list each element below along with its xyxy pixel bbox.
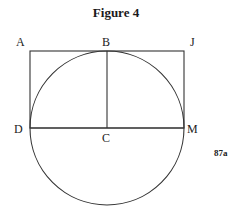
geometry-diagram: A B J D C M 87a bbox=[0, 0, 232, 219]
label-j: J bbox=[190, 35, 195, 49]
figure-code: 87a bbox=[214, 148, 228, 158]
label-c: C bbox=[102, 131, 110, 145]
label-a: A bbox=[16, 35, 25, 49]
label-d: D bbox=[14, 122, 23, 136]
label-b: B bbox=[102, 35, 110, 49]
label-m: M bbox=[187, 122, 198, 136]
